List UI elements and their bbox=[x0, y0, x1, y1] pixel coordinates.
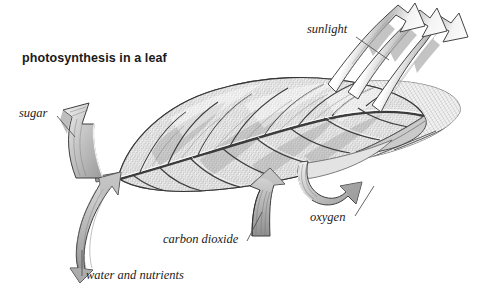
label-water-and-nutrients: water and nutrients bbox=[86, 268, 184, 282]
label-oxygen: oxygen bbox=[310, 210, 345, 224]
photosynthesis-diagram: photosynthesis in a leaf sunlight sugar … bbox=[0, 0, 477, 302]
figure-title: photosynthesis in a leaf bbox=[22, 51, 168, 65]
label-sunlight: sunlight bbox=[307, 22, 348, 36]
figure-canvas: photosynthesis in a leaf sunlight sugar … bbox=[0, 0, 477, 302]
label-sugar: sugar bbox=[19, 106, 48, 120]
label-carbon-dioxide: carbon dioxide bbox=[163, 232, 239, 246]
